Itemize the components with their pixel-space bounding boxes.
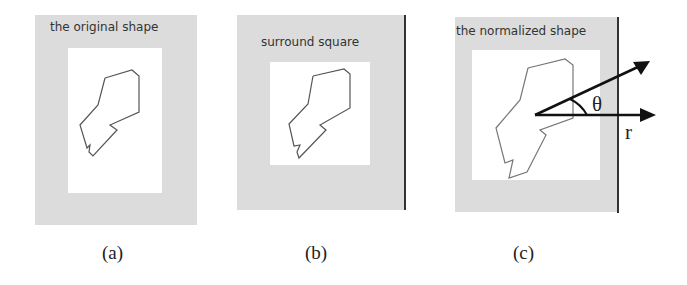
- radius-arrowhead-icon: [640, 108, 656, 122]
- diagram-overlay: [0, 0, 687, 285]
- r-label: r: [625, 120, 632, 145]
- theta-label: θ: [592, 92, 602, 117]
- original-shape-outline: [80, 70, 139, 156]
- angle-ray-arrow: [535, 66, 640, 115]
- normalized-shape-outline: [496, 59, 573, 178]
- bounded-shape-outline: [289, 69, 350, 158]
